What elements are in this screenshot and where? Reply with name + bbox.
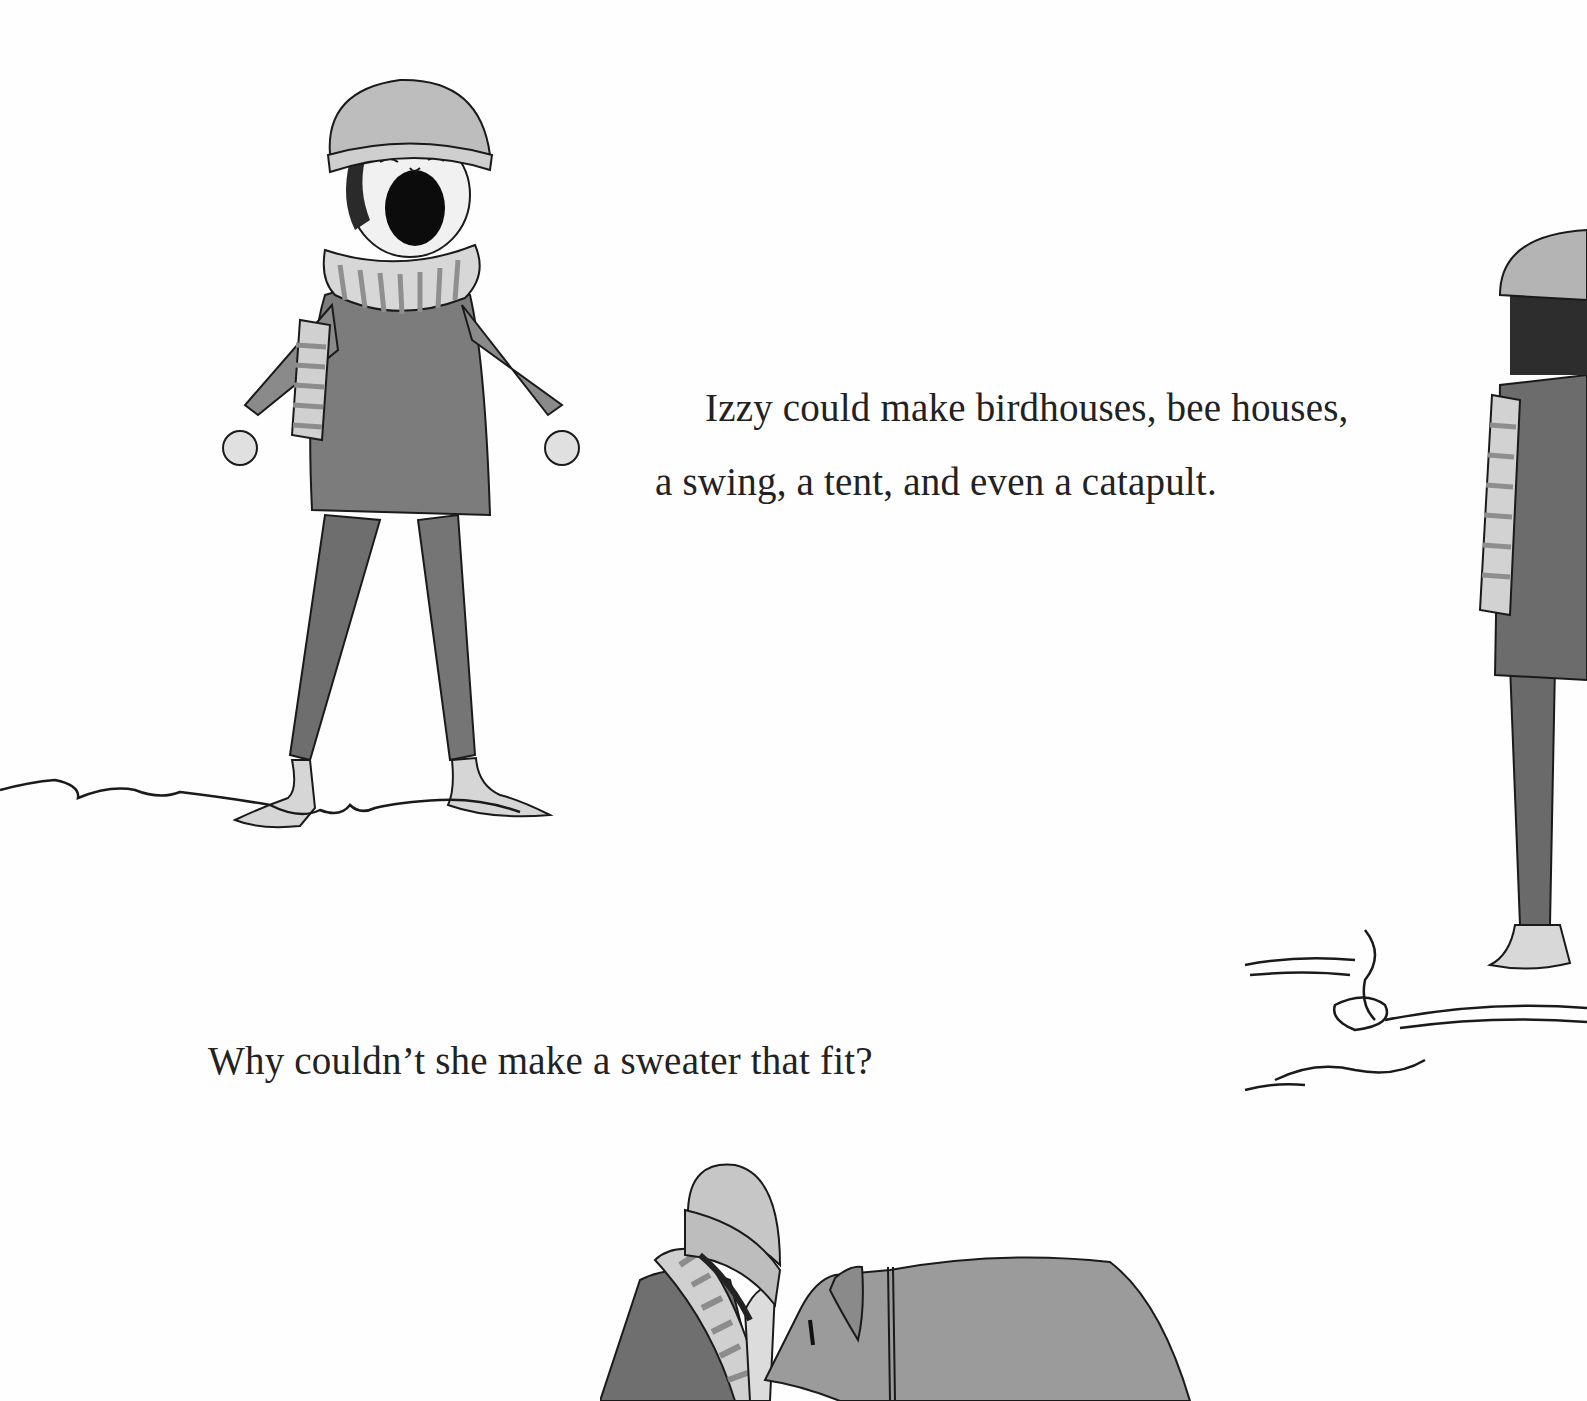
- ground-line: [0, 760, 570, 840]
- text-line: Why couldn’t she make a sweater that fit…: [208, 1024, 873, 1098]
- paragraph-abilities: Izzy could make birdhouses, bee houses, …: [655, 371, 1349, 519]
- girl-and-dog-illustration: [600, 1140, 1587, 1401]
- text-line: Izzy could make birdhouses, bee houses,: [655, 371, 1349, 445]
- text-line: a swing, a tent, and even a catapult.: [655, 445, 1349, 519]
- girl-standing-illustration: [1470, 225, 1587, 985]
- book-page: Izzy could make birdhouses, bee houses, …: [0, 0, 1587, 1401]
- ground-scribble: [1235, 910, 1587, 1100]
- paragraph-question: Why couldn’t she make a sweater that fit…: [208, 1024, 873, 1098]
- girl-shouting-illustration: [200, 60, 600, 850]
